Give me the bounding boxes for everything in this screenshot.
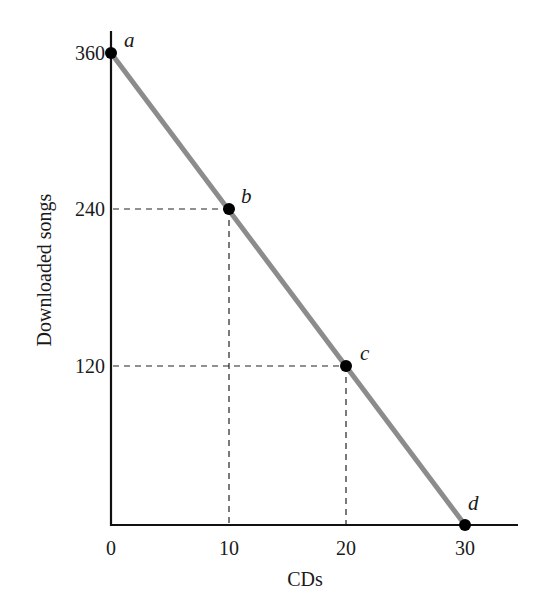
y-axis-title: Downloaded songs [33,193,56,346]
point-b [223,203,235,215]
guide-lines [113,209,346,524]
point-label-c: c [360,341,370,365]
y-tick-360: 360 [75,42,105,64]
budget-line [111,53,465,525]
x-axis-title: CDs [287,568,323,590]
y-tick-120: 120 [75,355,105,377]
x-tick-0: 0 [106,537,116,559]
point-label-b: b [241,184,252,208]
y-tick-240: 240 [75,198,105,220]
point-c [340,360,352,372]
x-tick-20: 20 [336,537,356,559]
budget-line-chart: a b c d 360 240 120 0 10 20 30 CDs Downl… [0,0,543,616]
axes [110,31,518,526]
x-tick-10: 10 [219,537,239,559]
point-label-d: d [468,491,479,515]
point-a [105,47,117,59]
point-d [459,519,471,531]
point-label-a: a [124,28,135,52]
x-tick-30: 30 [455,537,475,559]
